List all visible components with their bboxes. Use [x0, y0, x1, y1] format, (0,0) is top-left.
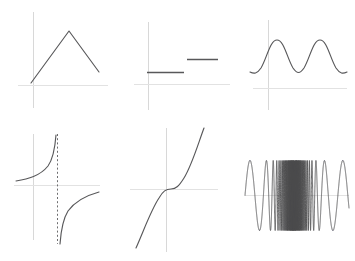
sine-wave-chart	[237, 0, 355, 120]
tent-curve	[31, 31, 99, 83]
plot-panel-rational-hyperbola	[0, 120, 118, 261]
hyperbola-right-branch	[60, 192, 99, 244]
plot-panel-chirp-oscillation	[237, 120, 355, 261]
cubic-curve	[136, 128, 204, 248]
chirp-oscillation-chart	[237, 120, 355, 261]
triangular-peak-chart	[0, 0, 118, 120]
step-function-chart	[118, 0, 237, 120]
function-plot-grid	[0, 0, 355, 261]
hyperbola-left-branch	[16, 135, 56, 181]
rational-hyperbola-chart	[0, 120, 118, 261]
sine-curve	[250, 40, 347, 73]
plot-panel-sine-wave	[237, 0, 355, 120]
cubic-curve-chart	[118, 120, 237, 261]
plot-panel-triangular-peak	[0, 0, 118, 120]
plot-panel-cubic-curve	[118, 120, 237, 261]
plot-panel-step-function	[118, 0, 237, 120]
